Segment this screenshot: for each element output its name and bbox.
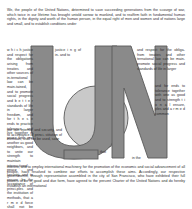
preamble-column-right: and respect for the obliga- from treatie…: [137, 48, 185, 71]
un-block-shape: [64, 150, 98, 159]
preamble-fragment-that: that: [100, 150, 126, 155]
poster-canvas: We, the people of the United Nations, de…: [0, 0, 192, 209]
un-letter-u-shape: [31, 46, 117, 159]
preamble-bottom-paragraph: interest, and to employ international ma…: [7, 165, 185, 188]
preamble-fragment-in-the: in the: [132, 156, 150, 161]
preamble-column-left-lower: our tain interna- and security, and to a…: [7, 128, 62, 142]
preamble-top-paragraph: We, the people of the United Nations, de…: [7, 8, 185, 27]
preamble-column-right-lower: and for ends to tolerance together with …: [155, 84, 185, 116]
preamble-column-middle: justice i n g of in- and to: [55, 48, 81, 57]
un-circle-shape: [64, 86, 128, 150]
